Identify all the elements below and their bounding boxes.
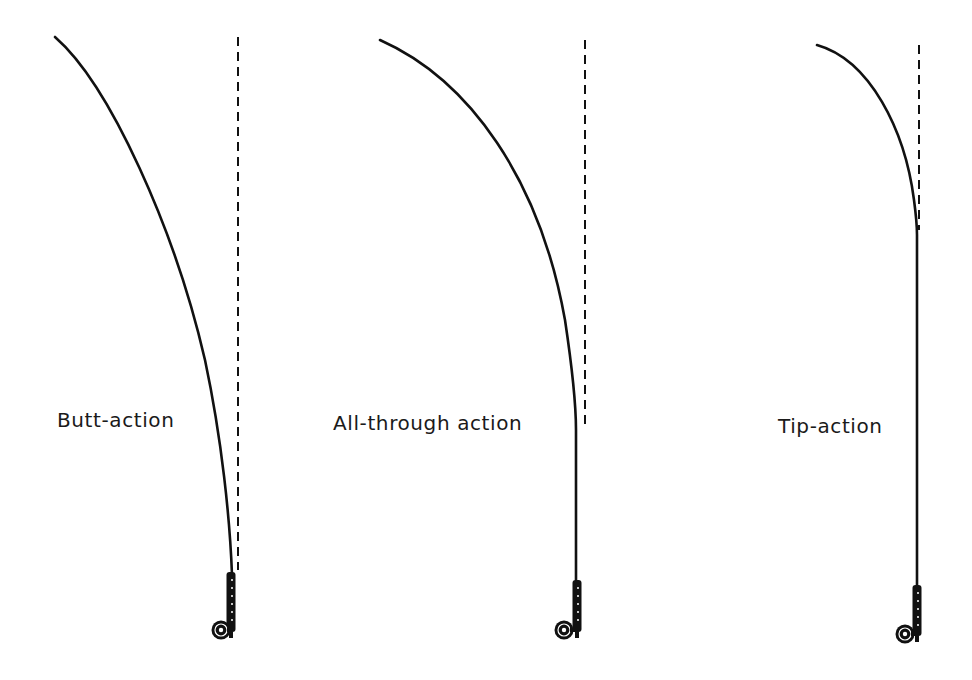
grip-ring <box>577 587 579 589</box>
grip-ring <box>917 624 919 626</box>
rod-butt <box>55 37 238 640</box>
label-butt-action: Butt-action <box>57 408 174 432</box>
grip-ring <box>577 595 579 597</box>
grip-ring <box>577 603 579 605</box>
reel-hub <box>903 632 907 636</box>
grip-icon <box>227 572 236 632</box>
grip-ring <box>917 600 919 602</box>
label-all-through-action: All-through action <box>333 411 522 435</box>
grip-ring <box>231 619 233 621</box>
grip-ring <box>917 592 919 594</box>
grip-ring <box>577 619 579 621</box>
grip-icon <box>913 585 922 636</box>
rod-all-through <box>380 40 585 640</box>
reel-seat <box>570 628 577 632</box>
grip-ring <box>231 603 233 605</box>
grip-ring <box>231 595 233 597</box>
reel-hub <box>562 628 566 632</box>
rod-blank-curve <box>55 37 232 575</box>
reel-seat <box>911 632 917 636</box>
butt-cap <box>915 636 919 642</box>
grip-ring <box>917 608 919 610</box>
grip-ring <box>231 611 233 613</box>
label-tip-action: Tip-action <box>778 414 883 438</box>
rod-blank-curve <box>817 45 917 585</box>
rod-blank-curve <box>380 40 576 580</box>
rod-action-diagram: Butt-action All-through action Tip-actio… <box>0 0 972 680</box>
grip-ring <box>917 616 919 618</box>
grip-ring <box>577 611 579 613</box>
reel-hub <box>219 628 223 632</box>
reel-seat <box>227 628 231 632</box>
grip-ring <box>231 579 233 581</box>
rod-tip <box>817 45 922 644</box>
grip-icon <box>573 580 582 632</box>
butt-cap <box>575 632 579 638</box>
grip-ring <box>231 587 233 589</box>
